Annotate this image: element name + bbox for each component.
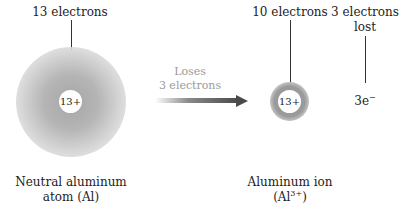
transition-arrow-icon [155,98,238,103]
ion-leader-line [290,20,291,85]
lost-electron-symbol: 3e− [335,94,395,108]
lost-label-line2: lost [325,20,405,34]
neutral-caption-line1: Neutral aluminum [10,175,132,189]
transition-text-line2: 3 electrons [150,79,230,93]
neutral-caption-line2: atom (Al) [10,190,132,204]
lost-symbol-text: 3e [354,94,369,108]
ion-caption-line2: (Al3+) [230,190,350,204]
neutral-nucleus-charge: 13+ [60,96,81,107]
ion-charge-superscript: 3+ [290,189,302,198]
lost-label-line1: 3 electrons [325,5,405,19]
lost-leader-line [365,36,366,83]
neutral-electron-label: 13 electrons [20,5,120,19]
ion-caption-line1: Aluminum ion [230,175,350,189]
ion-nucleus-charge: 13+ [279,96,300,107]
transition-text-line1: Loses [150,65,230,79]
ion-nucleus: 13+ [278,90,301,113]
ion-caption-suffix: ) [302,190,307,204]
lost-symbol-superscript: − [369,93,376,102]
neutral-nucleus: 13+ [59,90,82,113]
arrow-head-icon [236,95,248,107]
ion-caption-prefix: (Al [273,190,290,204]
